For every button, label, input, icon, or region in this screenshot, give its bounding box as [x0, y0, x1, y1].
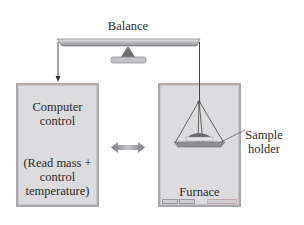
computer-title-line: control [16, 114, 99, 128]
computer-desc-line: temperature) [14, 184, 101, 198]
balance-label: Balance [100, 19, 156, 33]
balance-to-computer-arrow [56, 42, 61, 82]
sample-holder-icon [174, 101, 245, 148]
bidirectional-arrow-icon [111, 142, 145, 153]
sample-label-line: holder [240, 142, 288, 156]
computer-desc-line: control [14, 170, 101, 184]
computer-control-description: (Read mass + control temperature) [14, 156, 101, 198]
computer-desc-line: (Read mass + [14, 156, 101, 170]
computer-control-title: Computer control [16, 100, 99, 128]
balance-icon [57, 39, 200, 63]
sample-holder-label: Sample holder [240, 128, 288, 156]
furnace-label: Furnace [158, 185, 241, 199]
computer-title-line: Computer [16, 100, 99, 114]
sample-label-line: Sample [240, 128, 288, 142]
